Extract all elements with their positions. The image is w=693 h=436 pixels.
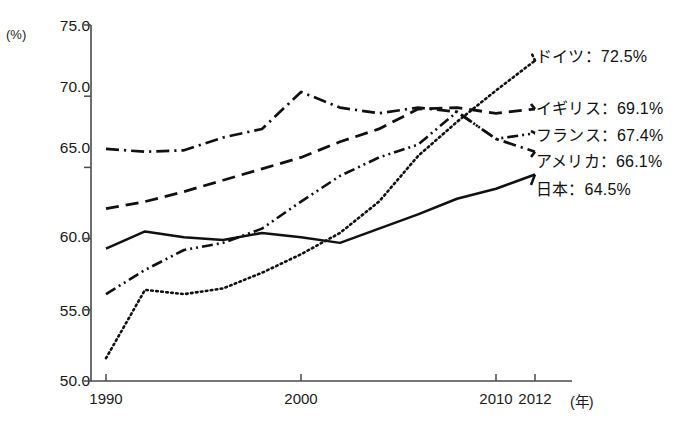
axis-lines bbox=[91, 25, 572, 381]
leader-line-アメリカ bbox=[531, 152, 535, 157]
series-paths bbox=[106, 61, 535, 359]
series-line-アメリカ bbox=[106, 92, 535, 152]
series-line-ドイツ bbox=[106, 61, 535, 359]
chart-container: (%) 75.0 70.0 65.0 60.0 55.0 50.0 1990 2… bbox=[0, 0, 693, 436]
chart-plot-area bbox=[0, 0, 693, 436]
leader-line-ドイツ bbox=[531, 52, 535, 61]
series-line-フランス bbox=[106, 112, 535, 294]
leader-line-フランス bbox=[531, 131, 535, 133]
y-axis-ticks bbox=[84, 25, 91, 381]
x-axis-ticks bbox=[106, 374, 535, 381]
label-leader-lines bbox=[531, 52, 535, 185]
series-line-日本 bbox=[106, 175, 535, 249]
